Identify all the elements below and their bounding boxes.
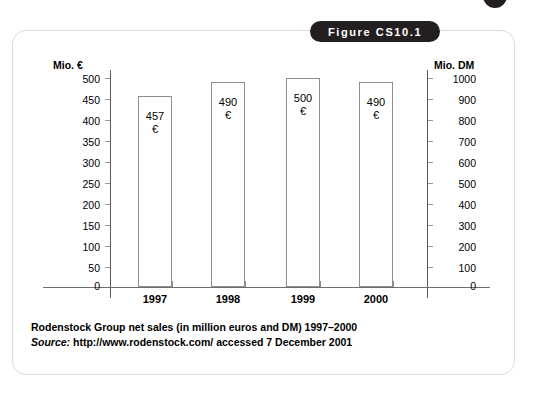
- y-tick-left-300: 300: [58, 157, 100, 169]
- y-tick-left-200: 200: [58, 199, 100, 211]
- x-tick-mark: [320, 281, 321, 287]
- bar-value-2000: 490 €: [359, 96, 393, 121]
- y-tick-right-100: 100: [434, 262, 476, 274]
- tick-mark-left: [105, 246, 110, 247]
- tick-mark-right: [428, 99, 433, 100]
- bar-value-1998: 490 €: [211, 96, 245, 121]
- tick-mark-left: [105, 183, 110, 184]
- tick-mark-right: [428, 225, 433, 226]
- y-tick-left-400: 400: [58, 115, 100, 127]
- x-tick-mark: [359, 281, 360, 287]
- y-tick-left-450: 450: [58, 94, 100, 106]
- y-tick-right-400: 400: [434, 199, 476, 211]
- tick-mark-right: [428, 183, 433, 184]
- x-label-1997: 1997: [130, 293, 180, 305]
- bar-value-currency-1997: €: [138, 123, 172, 136]
- tick-mark-left: [105, 204, 110, 205]
- y-tick-left-350: 350: [58, 136, 100, 148]
- tick-mark-right: [428, 162, 433, 163]
- tick-mark-left: [105, 99, 110, 100]
- x-tick-mark: [172, 281, 173, 287]
- tick-mark-right: [428, 246, 433, 247]
- y-tick-left-250: 250: [58, 178, 100, 190]
- bar-value-1999: 500 €: [286, 92, 320, 117]
- y-tick-right-200: 200: [434, 241, 476, 253]
- caption-source-text: http://www.rodenstock.com/ accessed 7 De…: [73, 336, 352, 348]
- x-tick-mark: [245, 281, 246, 287]
- tick-mark-right: [428, 141, 433, 142]
- bar-value-currency-1998: €: [211, 109, 245, 122]
- caption-source-word: Source:: [31, 336, 70, 348]
- bar-value-currency-2000: €: [359, 109, 393, 122]
- tick-mark-left: [105, 267, 110, 268]
- bar-value-number-1998: 490: [219, 96, 237, 108]
- y-axis-right-line: [427, 70, 428, 298]
- y-tick-right-800: 800: [434, 115, 476, 127]
- bar-value-number-2000: 490: [367, 96, 385, 108]
- y-tick-left-100: 100: [58, 241, 100, 253]
- y-axis-right-title: Mio. DM: [434, 59, 474, 71]
- tick-mark-left: [105, 225, 110, 226]
- y-tick-right-1000: 1000: [434, 73, 476, 85]
- tick-mark-left: [105, 120, 110, 121]
- caption-title: Rodenstock Group net sales (in million e…: [31, 320, 481, 335]
- y-tick-left-500: 500: [58, 73, 100, 85]
- figure-caption: Rodenstock Group net sales (in million e…: [31, 320, 481, 350]
- bar-value-number-1997: 457: [146, 110, 164, 122]
- x-label-2000: 2000: [351, 293, 401, 305]
- caption-source: Source: http://www.rodenstock.com/ acces…: [31, 335, 481, 350]
- tick-mark-right: [428, 120, 433, 121]
- y-tick-right-0: 0: [434, 280, 476, 292]
- y-tick-right-900: 900: [434, 94, 476, 106]
- y-tick-left-150: 150: [58, 220, 100, 232]
- x-tick-mark: [211, 281, 212, 287]
- x-axis-line: [43, 287, 490, 288]
- bar-value-number-1999: 500: [294, 92, 312, 104]
- y-tick-left-0: 0: [58, 280, 100, 292]
- tick-mark-left: [105, 162, 110, 163]
- y-tick-right-600: 600: [434, 157, 476, 169]
- x-tick-mark: [286, 281, 287, 287]
- x-label-1998: 1998: [203, 293, 253, 305]
- tick-mark-right: [428, 267, 433, 268]
- y-tick-right-700: 700: [434, 136, 476, 148]
- y-tick-right-300: 300: [434, 220, 476, 232]
- x-tick-mark: [393, 281, 394, 287]
- tick-mark-left: [105, 141, 110, 142]
- bar-value-1997: 457 €: [138, 110, 172, 135]
- tick-mark-left: [105, 78, 110, 79]
- tick-mark-right: [428, 204, 433, 205]
- bar-value-currency-1999: €: [286, 105, 320, 118]
- y-axis-left-title: Mio. €: [53, 59, 83, 71]
- y-tick-left-50: 50: [58, 262, 100, 274]
- x-label-1999: 1999: [278, 293, 328, 305]
- tick-mark-right: [428, 78, 433, 79]
- y-tick-right-500: 500: [434, 178, 476, 190]
- y-axis-left-line: [110, 70, 111, 298]
- x-tick-mark: [138, 281, 139, 287]
